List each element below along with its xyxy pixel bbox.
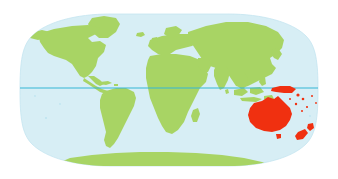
world-map-svg bbox=[0, 0, 338, 179]
world-map-figure bbox=[0, 0, 338, 179]
